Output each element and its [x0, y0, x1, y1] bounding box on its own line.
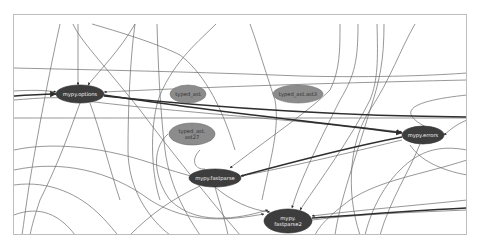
- dependency-edge: [128, 24, 170, 235]
- dependency-edge: [215, 187, 228, 235]
- node-label: mypy.errors: [408, 132, 439, 139]
- dependency-edge: [365, 148, 467, 235]
- heavy-edge-layer: [14, 94, 467, 218]
- dependency-edge: [410, 145, 467, 175]
- dependency-edge: [241, 140, 402, 176]
- heavy-edge: [14, 94, 56, 96]
- node-typed-ast-ast3[interactable]: typed_ast.ast3: [273, 85, 323, 103]
- dependency-edge: [73, 24, 240, 235]
- node-layer: mypy.optionstyped_asttyped_ast.ast3typed…: [56, 85, 444, 233]
- dependency-edge: [22, 24, 60, 235]
- node-label: mypy.options: [63, 91, 98, 98]
- dependency-graph-canvas[interactable]: mypy.optionstyped_asttyped_ast.ast3typed…: [0, 0, 477, 246]
- node-label: typed_ast.ast3: [279, 91, 317, 98]
- dependency-edge: [90, 103, 120, 200]
- dependency-edge: [315, 160, 467, 235]
- dependency-edge: [444, 120, 467, 135]
- node-typed-ast[interactable]: typed_ast: [170, 85, 206, 103]
- node-label: fastparse2: [274, 221, 302, 228]
- node-mypy-fastparse[interactable]: mypy.fastparse: [189, 169, 241, 187]
- dependency-edge: [14, 68, 467, 77]
- dependency-edge: [351, 24, 415, 235]
- dependency-edge: [30, 103, 80, 235]
- edge-layer: [14, 24, 467, 235]
- node-mypy-options[interactable]: mypy.options: [56, 85, 104, 103]
- dependency-edge: [14, 211, 75, 235]
- node-mypy-fastparse2[interactable]: mypy.fastparse2: [264, 209, 312, 233]
- heavy-edge: [241, 137, 402, 176]
- dependency-edge: [14, 184, 118, 235]
- node-label: mypy.fastparse: [195, 175, 235, 182]
- node-label: typed_ast: [175, 91, 200, 98]
- node-typed-ast-ast27[interactable]: typed_ast.ast27: [169, 123, 215, 145]
- dependency-edge: [14, 90, 56, 92]
- node-mypy-errors[interactable]: mypy.errors: [402, 126, 444, 144]
- dependency-edge: [88, 24, 135, 85]
- dependency-edge: [380, 144, 420, 235]
- node-label: ast27: [185, 134, 200, 140]
- dependency-edge: [195, 150, 205, 169]
